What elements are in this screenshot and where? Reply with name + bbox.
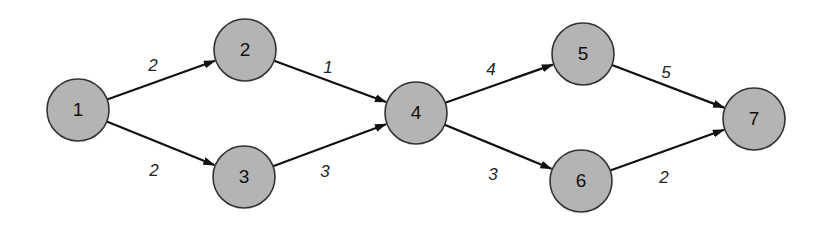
edge-weight-label: 2 <box>147 56 158 75</box>
edge-weight-label: 1 <box>323 58 332 77</box>
network-diagram: 22134352 1234567 <box>0 0 824 227</box>
node-label: 1 <box>73 99 84 120</box>
node-1: 1 <box>47 79 109 141</box>
node-6: 6 <box>550 150 612 212</box>
node-label: 7 <box>749 108 760 129</box>
edge-weight-label: 4 <box>486 60 495 79</box>
edge-weight-label: 2 <box>148 161 159 180</box>
edge-4-6 <box>445 125 552 169</box>
node-label: 2 <box>240 39 251 60</box>
node-7: 7 <box>723 88 785 150</box>
edge-1-2 <box>107 61 215 100</box>
node-2: 2 <box>214 19 276 81</box>
edge-4-5 <box>445 65 553 103</box>
edge-1-3 <box>107 122 215 165</box>
node-label: 6 <box>576 170 587 191</box>
edge-weight-label: 2 <box>658 168 669 187</box>
node-label: 5 <box>578 43 589 64</box>
nodes-layer: 1234567 <box>47 19 785 212</box>
node-label: 4 <box>411 102 422 123</box>
node-label: 3 <box>239 166 250 187</box>
edge-weight-label: 3 <box>320 162 330 181</box>
edge-6-7 <box>610 130 724 171</box>
diagram-svg: 22134352 1234567 <box>0 0 824 227</box>
edge-weight-label: 5 <box>661 63 671 82</box>
node-3: 3 <box>213 146 275 208</box>
node-5: 5 <box>552 23 614 85</box>
edge-weight-label: 3 <box>488 165 498 184</box>
edge-3-4 <box>273 124 386 166</box>
node-4: 4 <box>385 82 447 144</box>
